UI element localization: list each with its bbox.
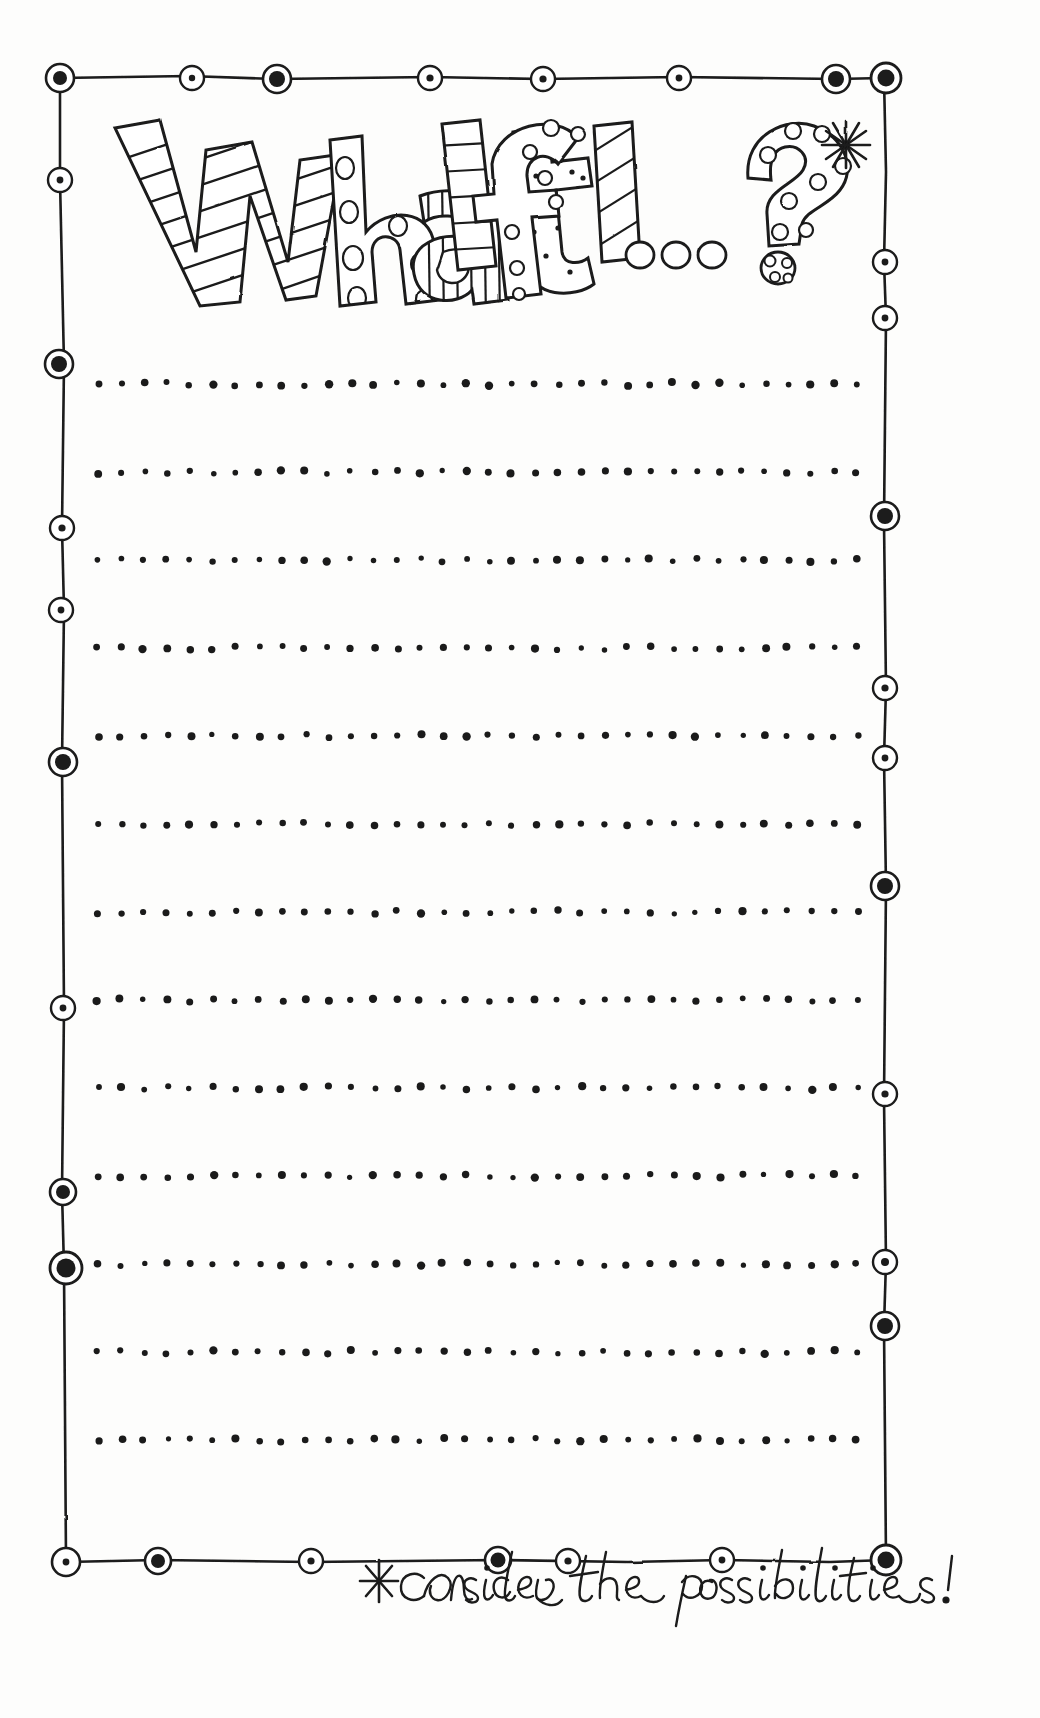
writing-line-dot [325,1082,332,1089]
writing-line-dot [507,557,515,565]
writing-line-dot [256,733,264,741]
worksheet-page: What If I... ? ✳ consider the possibilit… [0,0,1040,1718]
writing-line-dot [738,907,746,915]
writing-line-dot [763,381,769,387]
writing-line-dot [371,558,377,564]
writing-line[interactable] [94,1259,859,1270]
border-bottom-line [66,1560,886,1562]
writing-line-dot [829,1435,836,1442]
writing-line[interactable] [95,819,861,829]
writing-line-dot [300,1083,308,1091]
writing-line-dot [786,557,793,564]
writing-line-dot [832,644,838,650]
writing-line-dot [118,643,125,650]
writing-line-dot [507,997,514,1004]
writing-line-dot [371,822,379,830]
writing-line[interactable] [93,642,860,653]
bead-right-7 [873,1082,897,1106]
writing-line-dot [784,733,790,739]
writing-line-dot [347,468,353,474]
writing-line-dot [348,379,356,387]
writing-line-dot [371,733,377,739]
writing-line-dot [187,646,194,653]
writing-line[interactable] [96,1082,861,1094]
writing-line-dot [348,733,354,739]
writing-line-dot [210,1083,217,1090]
writing-line-dot [601,1173,608,1180]
writing-line-dot [165,732,171,738]
writing-line-dot [831,908,837,914]
writing-line[interactable] [95,1170,859,1182]
writing-line-dot [806,819,814,827]
writing-line-dot [417,821,424,828]
writing-line-dot [347,909,353,915]
writing-line-dot [210,1171,218,1179]
writing-line-dot [715,908,721,914]
writing-line[interactable] [96,378,860,390]
writing-line-dot [165,1083,171,1089]
writing-line-dot [576,556,584,564]
writing-line-dot [671,1172,678,1179]
title-ellipsis-dots [626,242,726,268]
writing-line-dot [394,1085,401,1092]
writing-line-dot [645,554,653,562]
writing-line-dot [668,731,676,739]
writing-line-dot [93,644,100,651]
writing-line-dot [232,1349,239,1356]
writing-line-dot [210,996,217,1003]
writing-line-dot [277,466,285,474]
writing-line-dot [554,906,561,913]
writing-line-dot [369,995,377,1003]
writing-line-dot [116,1174,124,1182]
writing-line-dot [669,1260,677,1268]
writing-line-dot [117,1347,123,1353]
writing-line-dot [852,469,859,476]
writing-line-dot [577,1259,584,1266]
writing-line-dot [462,1171,469,1178]
writing-line[interactable] [95,554,861,565]
writing-line-dot [647,1171,653,1177]
writing-line[interactable] [94,466,859,478]
writing-line[interactable] [94,906,862,917]
writing-line-dot [257,557,262,562]
writing-line-dot [509,908,514,913]
writing-line-dot [188,732,196,740]
title-letter-I-of-if [435,120,517,270]
writing-line[interactable] [94,1346,861,1358]
writing-line-dot [741,733,746,738]
writing-line-dot [853,643,860,650]
writing-line-dot [348,1084,354,1090]
writing-line-dot [256,1173,262,1179]
writing-line[interactable] [95,1434,859,1445]
asterisk-star-icon [822,122,870,168]
writing-line-dot [578,380,585,387]
footer-asterisk-icon [360,1560,398,1602]
writing-line-dot [139,1436,146,1443]
writing-line-dot [692,910,697,915]
writing-line-dot [739,1348,745,1354]
writing-line-dot [508,1083,515,1090]
writing-line-dot [486,820,492,826]
writing-line-dot [647,909,654,916]
writing-line-dot [347,556,352,561]
writing-line-dot [461,1435,468,1442]
writing-line-dot [576,910,583,917]
writing-line-dot [762,644,770,652]
writing-line-dot [830,1170,838,1178]
writing-line-dot [531,645,539,653]
writing-line[interactable] [92,995,860,1006]
writing-line-dot [164,379,170,385]
writing-line[interactable] [95,730,861,741]
writing-line-dot [441,1347,448,1354]
writing-line-dot [715,821,723,829]
writing-line-dot [783,1262,791,1270]
writing-line-dot [347,1346,355,1354]
writing-line-dot [347,1175,352,1180]
writing-line-dot [555,1085,560,1090]
writing-line-dot [232,733,239,740]
writing-line-dot [140,557,146,563]
writing-line-dot [646,1260,653,1267]
writing-line-dot [554,997,560,1003]
bead-top-4 [531,67,555,91]
writing-line-dot [301,1172,307,1178]
